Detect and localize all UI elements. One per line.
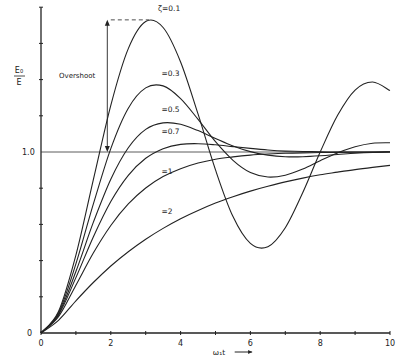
arrowhead-up-icon xyxy=(105,20,110,26)
step-response-chart: 0246810ω₁tE₀E ζ=0.1=0.3=0.5=0.7=1=2 0 1.… xyxy=(0,0,399,357)
x-tick-label: 8 xyxy=(318,339,323,348)
curve-labels: ζ=0.1=0.3=0.5=0.7=1=2 xyxy=(158,4,181,216)
curve-label: ζ=0.1 xyxy=(158,4,181,13)
x-tick-label: 10 xyxy=(385,339,395,348)
x-tick-label: 2 xyxy=(108,339,113,348)
curve-label: =1 xyxy=(161,167,172,176)
x-tick-label: 0 xyxy=(38,339,43,348)
y-axis-label-numerator: E₀ xyxy=(15,66,23,75)
curve-label: =0.3 xyxy=(161,69,179,78)
x-tick-label: 6 xyxy=(248,339,253,348)
x-arrowhead-icon xyxy=(248,350,252,354)
overshoot-label: Overshoot xyxy=(59,72,95,80)
axes: 0246810ω₁tE₀E xyxy=(14,7,395,357)
curve-0-1 xyxy=(41,20,390,333)
curve-2 xyxy=(41,165,390,333)
y-label-zero: 0 xyxy=(27,329,32,338)
curve-label: =0.7 xyxy=(161,127,179,136)
x-axis-label: ω₁t xyxy=(213,348,225,357)
y-label-one: 1.0 xyxy=(22,148,35,157)
x-tick-label: 4 xyxy=(178,339,183,348)
arrowhead-down-icon xyxy=(105,146,110,152)
curve-0-5 xyxy=(41,123,390,333)
curve-label: =0.5 xyxy=(161,105,179,114)
curve-label: =2 xyxy=(161,207,172,216)
curves xyxy=(41,20,390,333)
y-axis-label-denominator: E xyxy=(16,78,21,87)
curve-0-3 xyxy=(41,85,390,333)
overshoot-annotation xyxy=(56,20,149,152)
